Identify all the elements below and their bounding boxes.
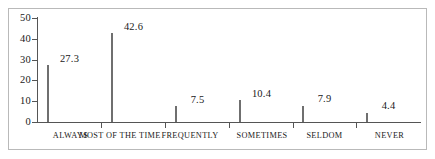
- bar-always[interactable]: [47, 65, 49, 122]
- x-axis-tick-mark-5: [356, 123, 357, 128]
- y-axis-tick-label-0: 0: [1, 117, 31, 127]
- bar-value-sometimes: 10.4: [239, 88, 284, 99]
- x-axis-tick-mark-4: [293, 123, 294, 128]
- plot-area: 27.3 42.6 7.5 10.4 7.9 4.4: [38, 18, 420, 122]
- y-axis-tick-label-10: 10: [1, 96, 31, 106]
- bar-value-never: 4.4: [366, 100, 411, 111]
- x-axis-tick-mark-3: [229, 123, 230, 128]
- x-axis-tick-mark-1: [101, 123, 102, 128]
- bar-sometimes[interactable]: [239, 100, 241, 122]
- bar-group-most-of-the-time[interactable]: 42.6: [111, 18, 156, 122]
- bar-value-frequently: 7.5: [175, 94, 220, 105]
- bar-value-always: 27.3: [47, 53, 92, 64]
- bar-seldom[interactable]: [302, 106, 304, 122]
- bar-group-frequently[interactable]: 7.5: [175, 18, 220, 122]
- bar-group-seldom[interactable]: 7.9: [302, 18, 347, 122]
- y-axis-tick-label-30: 30: [1, 55, 31, 65]
- y-axis-tick-label-50: 50: [1, 13, 31, 23]
- bar-group-never[interactable]: 4.4: [366, 18, 411, 122]
- bar-value-most-of-the-time: 42.6: [111, 21, 156, 32]
- bar-most-of-the-time[interactable]: [111, 33, 113, 122]
- bar-group-always[interactable]: 27.3: [47, 18, 92, 122]
- x-axis-category-labels: ALWAYS MOST OF THE TIME FREQUENTLY SOMET…: [38, 130, 420, 144]
- bar-group-sometimes[interactable]: 10.4: [239, 18, 284, 122]
- bar-value-seldom: 7.9: [302, 93, 347, 104]
- x-axis-tick-mark-2: [165, 123, 166, 128]
- bar-frequently[interactable]: [175, 106, 177, 122]
- bar-chart-figure: 50 40 30 20 10 0 27.3 42.6 7.5 10.4: [0, 0, 435, 159]
- bar-never[interactable]: [366, 113, 368, 122]
- x-axis-label-never: NEVER: [347, 130, 432, 141]
- y-axis-tick-labels: 50 40 30 20 10 0: [0, 0, 31, 159]
- y-axis-tick-label-20: 20: [1, 75, 31, 85]
- y-axis-tick-label-40: 40: [1, 34, 31, 44]
